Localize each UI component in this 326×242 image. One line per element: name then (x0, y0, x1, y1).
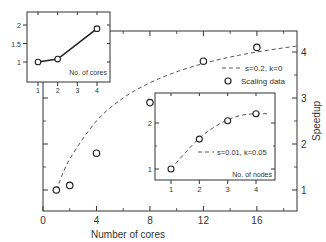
inset-nodes-y-tick-label: 1 (148, 165, 152, 174)
main-y-tick-label: 4 (301, 47, 307, 58)
inset-nodes-x-tick-label: 3 (226, 185, 230, 194)
inset-cores-point-marker (35, 59, 41, 65)
legend-circle-marker-icon (225, 78, 231, 84)
chart: 0481216 1234 Number of cores Speedup s=0… (0, 0, 326, 242)
inset-nodes: 123412 s=0.01, k=0.05 No. of nodes (148, 93, 275, 194)
main-x-tick-label: 0 (40, 215, 46, 226)
main-legend: s=0.2, k=0 Scaling data (222, 64, 286, 86)
main-x-axis-label: Number of cores (91, 229, 165, 240)
main-x-tick-label: 4 (94, 215, 100, 226)
data-point-marker (200, 58, 206, 64)
inset-cores-x-tick-label: 2 (56, 87, 60, 94)
inset-cores-y-tick-label: 1.5 (11, 41, 21, 48)
main-x-tick-label: 12 (198, 215, 210, 226)
main-y-tick-label: 2 (301, 139, 307, 150)
inset-nodes-x-tick-label: 2 (197, 185, 201, 194)
main-x-tick-label: 16 (251, 215, 263, 226)
inset-cores-x-tick-label: 3 (75, 87, 79, 94)
inset-cores-y-tick-label: 2 (17, 22, 21, 29)
inset-cores-point-marker (94, 26, 100, 32)
inset-nodes-x-tick-label: 4 (254, 185, 258, 194)
inset-cores-x-tick-label: 1 (36, 87, 40, 94)
inset-nodes-point-marker (253, 111, 259, 117)
inset-cores-y-tick-label: 1 (17, 59, 21, 66)
inset-nodes-x-tick-label: 1 (169, 185, 173, 194)
data-point-marker (67, 182, 73, 188)
inset-cores-point-marker (55, 56, 61, 62)
data-point-marker (93, 150, 99, 156)
inset-nodes-x-label: No. of nodes (232, 171, 272, 178)
inset-cores-x-label: No. of cores (69, 69, 107, 76)
data-point-marker (53, 187, 59, 193)
inset-nodes-point-marker (225, 118, 231, 124)
data-point-marker (147, 99, 153, 105)
main-x-tick-label: 8 (147, 215, 153, 226)
legend-data-label: Scaling data (241, 77, 286, 86)
inset-cores-x-tick-label: 4 (95, 87, 99, 94)
inset-nodes-point-marker (168, 166, 174, 172)
data-point-marker (254, 44, 260, 50)
inset-nodes-y-tick-label: 2 (148, 119, 152, 128)
main-y-axis-label: Speedup (311, 101, 322, 141)
main-y-tick-label: 1 (301, 185, 307, 196)
inset-nodes-legend-label: s=0.01, k=0.05 (217, 148, 267, 157)
inset-cores: 123411.52 No. of cores (11, 12, 110, 94)
legend-fit-label: s=0.2, k=0 (245, 64, 283, 73)
inset-nodes-point-marker (196, 136, 202, 142)
main-y-tick-label: 3 (301, 93, 307, 104)
